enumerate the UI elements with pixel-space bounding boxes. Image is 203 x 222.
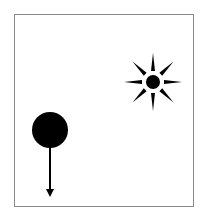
diagram-scene xyxy=(0,0,203,222)
sun-icon xyxy=(124,53,182,111)
caption-cut-off xyxy=(55,216,145,222)
ball-shape xyxy=(32,112,68,148)
down-arrow-icon xyxy=(46,146,54,197)
